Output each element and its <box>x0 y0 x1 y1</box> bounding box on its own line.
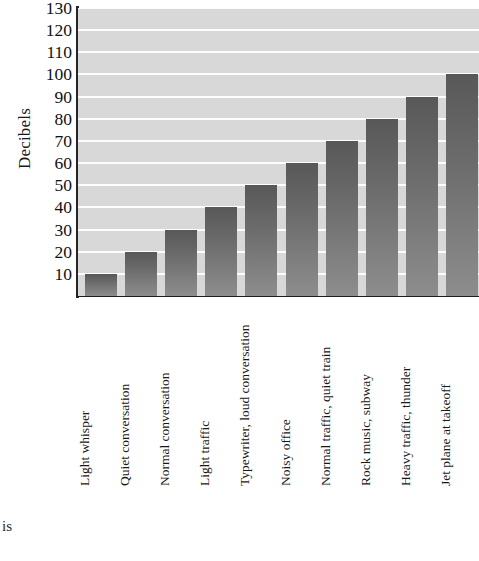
x-axis-tick-label: Noisy office <box>279 419 293 486</box>
x-axis-tick-label: Light whisper <box>78 411 92 486</box>
x-axis-label-slot: Typewriter, loud conversation <box>238 300 278 486</box>
y-axis-tick-label: 120 <box>0 21 72 39</box>
x-axis-tick-label: Normal traffic, quiet train <box>319 347 333 486</box>
y-axis-tick-label: 80 <box>0 110 72 128</box>
x-axis-label-slot: Quiet conversation <box>118 300 158 486</box>
bar <box>245 185 277 296</box>
y-axis-tick-label: 40 <box>0 198 72 216</box>
bars <box>78 8 479 296</box>
y-axis-tick-label: 60 <box>0 154 72 172</box>
y-axis-tick-label: 130 <box>0 0 72 17</box>
x-axis-tick-label: Rock music, subway <box>359 374 373 486</box>
x-axis-label-slot: Normal traffic, quiet train <box>319 300 359 486</box>
caption-fragment: is <box>2 518 12 534</box>
y-axis-tick-label: 110 <box>0 43 72 61</box>
bar <box>205 207 237 296</box>
y-axis-tick-label: 50 <box>0 176 72 194</box>
x-axis-label-slot: Noisy office <box>279 300 319 486</box>
x-axis-label-slot: Rock music, subway <box>359 300 399 486</box>
x-axis-tick-label: Light traffic <box>198 421 212 486</box>
bar <box>85 274 117 296</box>
x-axis-tick-label: Jet plane at takeoff <box>439 384 453 486</box>
y-axis-tick-label: 30 <box>0 221 72 239</box>
x-axis-tick-label: Heavy traffic, thunder <box>399 367 413 486</box>
x-axis-category-labels: Light whisperQuiet conversationNormal co… <box>78 300 479 490</box>
x-axis-tick-label: Quiet conversation <box>118 384 132 486</box>
x-axis-label-slot: Jet plane at takeoff <box>439 300 479 486</box>
plot-area <box>78 8 479 296</box>
bar <box>326 141 358 296</box>
bar <box>406 97 438 296</box>
bar <box>366 119 398 296</box>
x-axis-label-slot: Light whisper <box>78 300 118 486</box>
y-axis-tick-label: 90 <box>0 88 72 106</box>
bar <box>165 230 197 296</box>
y-axis-tick-label: 70 <box>0 132 72 150</box>
y-axis-tick-label: 10 <box>0 265 72 283</box>
y-axis-tick-labels: 130120110100908070605040302010 <box>0 0 72 300</box>
x-axis-label-slot: Heavy traffic, thunder <box>399 300 439 486</box>
x-axis-tick-label: Typewriter, loud conversation <box>238 324 252 486</box>
x-axis-label-slot: Light traffic <box>198 300 238 486</box>
x-axis-tick-label: Normal conversation <box>158 372 172 486</box>
x-axis-label-slot: Normal conversation <box>158 300 198 486</box>
y-axis-tick-label: 20 <box>0 243 72 261</box>
y-axis-tick-label: 100 <box>0 65 72 83</box>
bar <box>125 252 157 296</box>
decibel-bar-chart: Decibels 130120110100908070605040302010 … <box>0 0 479 561</box>
bar <box>286 163 318 296</box>
bar <box>446 74 478 296</box>
